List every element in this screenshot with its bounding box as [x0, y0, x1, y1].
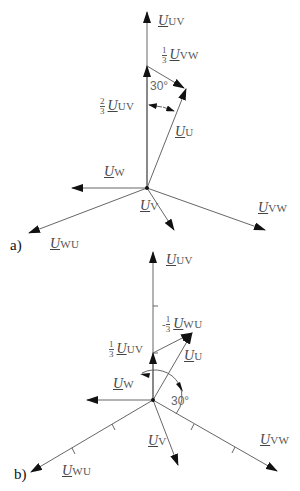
tick-b-vw-2 [232, 447, 235, 453]
diagram-b-tag: b) [14, 466, 27, 483]
angle-b-label: 30° [171, 394, 189, 408]
label-b-uv-third: 13UUV [109, 340, 144, 359]
label-b-v: UV [148, 434, 167, 448]
label-a-vw: UVW [258, 201, 287, 215]
phasor-b-vw [153, 400, 277, 471]
label-b-uv: UUV [166, 253, 193, 267]
label-b-w: UW [113, 377, 134, 391]
phasor-a-vw [147, 188, 265, 230]
diagram-a-tag: a) [10, 237, 22, 254]
label-a-uv-two-thirds: 23UUV [100, 97, 135, 116]
label-b-wu-neg-third: -13UWU [162, 315, 203, 334]
fraction: 23 [100, 97, 105, 116]
origin-b [151, 398, 155, 402]
label-a-uv: UUV [158, 14, 185, 28]
label-b-vw: UVW [260, 433, 289, 447]
fraction: 13 [166, 315, 171, 334]
label-a-vw-third: 13UVW [162, 46, 199, 65]
label-a-wu: UWU [50, 237, 79, 251]
phasor-diagrams [0, 0, 300, 491]
angle-a-arrow-left [149, 105, 162, 107]
label-a-w: UW [104, 165, 125, 179]
tick-b-vw-1 [191, 424, 194, 430]
label-b-wu: UWU [62, 464, 91, 478]
tick-b-wu-1 [112, 424, 115, 430]
angle-a-arrow-right [163, 107, 174, 111]
tick-b-wu-2 [72, 448, 75, 454]
angle-a-label: 30° [150, 79, 168, 93]
fraction: 13 [162, 46, 167, 65]
origin-a [145, 186, 149, 190]
phasor-b-wu [31, 400, 153, 472]
phasor-a-wu [29, 188, 147, 233]
label-b-u: UU [184, 349, 203, 363]
label-a-u: UU [175, 125, 194, 139]
fraction: 13 [109, 340, 114, 359]
label-a-v: UV [140, 199, 159, 213]
